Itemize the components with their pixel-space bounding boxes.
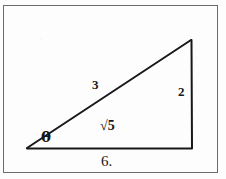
angle-theta-label: θ [41,130,51,145]
vertical-leg-label: 2 [178,85,185,98]
figure-screenshot: 3 2 √5 θ 6. [0,0,226,179]
base-leg-label: √5 [100,119,115,133]
vertical-leg-line [192,40,193,148]
right-triangle-drawing [0,0,226,179]
hypotenuse-label: 3 [92,78,99,91]
figure-number-label: 6. [101,154,112,169]
